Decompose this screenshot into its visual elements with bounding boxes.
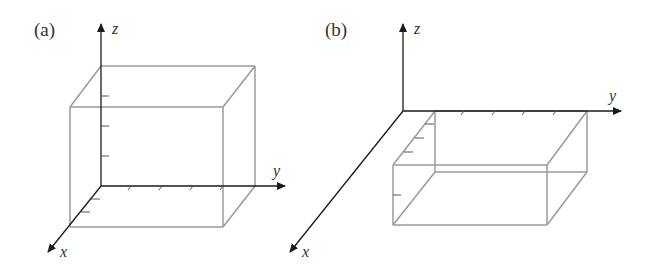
panel-a-z-label: z bbox=[111, 20, 119, 37]
panel-b-box bbox=[393, 111, 587, 225]
panel-b-y-label: y bbox=[607, 87, 617, 105]
panel-a-y-label: y bbox=[271, 162, 281, 180]
panel-b-x-axis bbox=[290, 111, 403, 252]
panel-a-label: (a) bbox=[34, 19, 55, 41]
panel-b-axes bbox=[290, 24, 621, 252]
panel-b-z-label: z bbox=[413, 20, 421, 37]
panel-b-x-label: x bbox=[301, 243, 309, 260]
figure-canvas: (a) bbox=[0, 0, 649, 271]
panel-a-box bbox=[70, 66, 255, 227]
panel-a-x-axis bbox=[48, 186, 101, 252]
panel-b: (b) bbox=[290, 19, 621, 260]
panel-b-label: (b) bbox=[325, 19, 347, 41]
panel-a: (a) bbox=[34, 19, 285, 260]
panel-b-ticks bbox=[393, 111, 556, 195]
panel-a-ticks bbox=[81, 96, 223, 212]
panel-a-axes bbox=[48, 24, 285, 252]
panel-a-x-label: x bbox=[59, 243, 67, 260]
